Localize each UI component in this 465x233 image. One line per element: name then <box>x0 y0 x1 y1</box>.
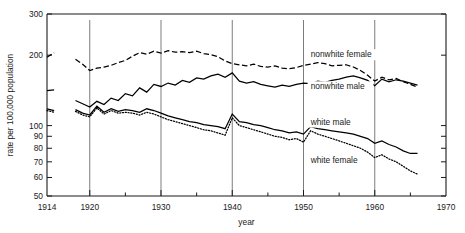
x-tick-label-1940: 1940 <box>223 202 242 212</box>
y-tick-label-60: 60 <box>34 172 44 182</box>
x-axis-title: year <box>238 217 255 227</box>
x-tick-label-1914: 1914 <box>38 202 57 212</box>
x-tick-label-1960: 1960 <box>365 202 384 212</box>
annotation-nonwhite-male: nonwhite male <box>311 81 365 91</box>
annotation-nonwhite-female: nonwhite female <box>311 49 372 59</box>
y-tick-label-50: 50 <box>34 191 44 201</box>
series-line-white-male-seg1 <box>76 106 418 153</box>
x-tick-label-1920: 1920 <box>80 202 99 212</box>
y-tick-label-80: 80 <box>34 143 44 153</box>
annotation-white-male: white male <box>310 117 351 127</box>
y-tick-label-70: 70 <box>34 157 44 167</box>
y-tick-label-100: 100 <box>29 121 43 131</box>
y-tick-label-200: 200 <box>29 50 43 60</box>
y-tick-label-90: 90 <box>34 131 44 141</box>
series-line-nonwhite-male <box>47 90 54 91</box>
annotation-white-female: white female <box>310 155 358 165</box>
y-axis-title: rate per 100,000 population <box>5 53 15 156</box>
chart-figure: 5060708090100200300191419201930194019501… <box>0 0 465 233</box>
y-tick-label-300: 300 <box>29 9 43 19</box>
chart-svg: 5060708090100200300191419201930194019501… <box>0 0 465 233</box>
x-tick-label-1970: 1970 <box>437 202 456 212</box>
x-tick-label-1950: 1950 <box>294 202 313 212</box>
x-tick-label-1930: 1930 <box>152 202 171 212</box>
